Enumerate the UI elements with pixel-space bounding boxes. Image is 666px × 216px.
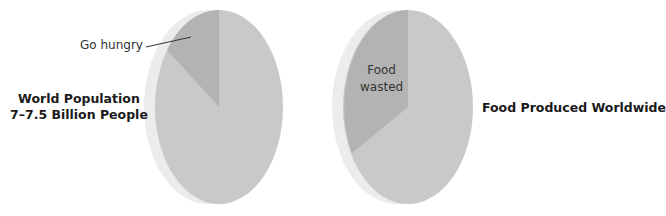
- food-wasted-label: Food wasted: [360, 62, 403, 96]
- food-label-line-2: wasted: [360, 79, 403, 96]
- world-population-pie: [144, 10, 283, 204]
- go-hungry-label: Go hungry: [80, 38, 143, 52]
- left-chart-title: World Population 7–7.5 Billion People: [10, 91, 148, 123]
- food-label-line-1: Food: [360, 62, 403, 79]
- right-chart-title: Food Produced Worldwide: [482, 100, 666, 116]
- left-title-line-2: 7–7.5 Billion People: [10, 107, 148, 123]
- left-title-line-1: World Population: [10, 91, 148, 107]
- food-produced-pie: [332, 10, 473, 204]
